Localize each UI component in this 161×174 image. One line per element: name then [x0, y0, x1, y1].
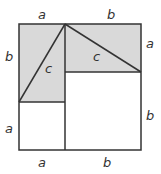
label-right-a: a — [146, 36, 154, 51]
label-hyp-left: c — [45, 61, 52, 76]
label-bottom-b: b — [103, 155, 111, 170]
label-left-b: b — [5, 49, 13, 64]
label-left-a: a — [5, 121, 13, 136]
label-top-a: a — [38, 7, 46, 22]
label-bottom-a: a — [38, 155, 46, 170]
label-top-b: b — [107, 7, 115, 22]
label-hyp-right: c — [93, 49, 100, 64]
label-right-b: b — [146, 108, 154, 123]
pythagorean-diagram: a b b a a b a b c c — [0, 0, 161, 174]
